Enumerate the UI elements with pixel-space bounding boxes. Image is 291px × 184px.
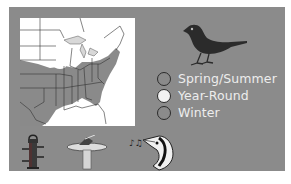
- bird-silhouette: [179, 17, 249, 67]
- birdbath-icon: [65, 135, 109, 171]
- bird-info-panel: Spring/Summer Year-Round Winter: [9, 7, 285, 171]
- range-map: [20, 18, 135, 126]
- range-map-eastern-us-icon: [20, 18, 135, 126]
- year-round-swatch-icon: [157, 89, 171, 103]
- feeding-icons-row: ♪♫: [9, 129, 285, 171]
- songbird-silhouette-icon: [179, 17, 249, 67]
- legend-label: Spring/Summer: [178, 71, 277, 86]
- song-bird-head-icon: ♪♫: [129, 132, 175, 171]
- legend-item-year-round: Year-Round: [157, 87, 277, 104]
- legend-label: Winter: [178, 105, 220, 120]
- spring-summer-swatch-icon: [157, 72, 171, 86]
- season-legend: Spring/Summer Year-Round Winter: [157, 70, 277, 121]
- legend-label: Year-Round: [178, 88, 249, 103]
- svg-text:♪♫: ♪♫: [129, 138, 143, 148]
- tube-feeder-icon: [20, 133, 46, 171]
- winter-swatch-icon: [157, 106, 171, 120]
- legend-item-winter: Winter: [157, 104, 277, 121]
- legend-item-spring-summer: Spring/Summer: [157, 70, 277, 87]
